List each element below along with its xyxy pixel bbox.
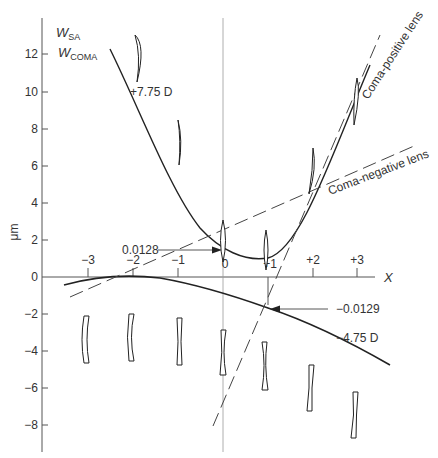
w-sa-positive-curve <box>110 49 370 259</box>
y-tick-neg6: −6 <box>24 381 38 395</box>
y-tick-labels: 12 10 8 6 4 2 0 −2 −4 −6 −8 <box>24 47 38 432</box>
axes <box>42 18 375 452</box>
y-tick-10: 10 <box>25 85 39 99</box>
lens-icon-pos-6 <box>354 78 359 125</box>
y-tick-12: 12 <box>25 47 39 61</box>
lens-icon-pos-2 <box>178 120 181 165</box>
y-tick-8: 8 <box>31 122 38 136</box>
y-tick-neg8: −8 <box>24 418 38 432</box>
lens-aberration-chart: 12 10 8 6 4 2 0 −2 −4 −6 −8 μm −3 −2 −1 … <box>0 0 438 458</box>
lens-icon-neg-5 <box>262 342 268 390</box>
w-sa-negative-curve <box>64 276 390 365</box>
x-tick-neg1: −1 <box>171 253 185 267</box>
label-minus-4-75-D: −4.75 D <box>336 331 379 345</box>
lens-icon-neg-6 <box>307 365 314 411</box>
negative-lens-icons <box>82 314 358 438</box>
y-tick-0: 0 <box>31 270 38 284</box>
label-coma-negative: Coma-negative lens <box>326 146 431 197</box>
y-tick-neg2: −2 <box>24 307 38 321</box>
y-tick-4: 4 <box>31 196 38 210</box>
legend: WSA WCOMA <box>56 25 97 62</box>
x-axis-label: X <box>383 270 394 285</box>
x-tick-pos2: +2 <box>306 253 320 267</box>
y-tick-2: 2 <box>31 233 38 247</box>
lens-icon-neg-2 <box>128 314 135 361</box>
coma-negative-line <box>70 146 414 297</box>
y-tick-6: 6 <box>31 159 38 173</box>
lens-icon-neg-7 <box>351 392 358 438</box>
lens-icon-pos-3 <box>221 220 226 262</box>
label-coma-positive: Coma-positive lens <box>359 8 426 101</box>
x-tick-neg3: −3 <box>81 253 95 267</box>
lens-icon-pos-5 <box>309 148 314 194</box>
x-tick-pos3: +3 <box>350 253 364 267</box>
lens-icon-neg-1 <box>82 316 89 363</box>
legend-w-coma: WCOMA <box>58 45 97 62</box>
legend-w-sa: WSA <box>56 25 80 42</box>
y-axis-label: μm <box>7 224 21 241</box>
label-plus-7-75-D: +7.75 D <box>130 85 173 99</box>
lens-icon-neg-3 <box>177 318 182 365</box>
lens-icon-pos-4 <box>264 230 268 270</box>
svg-text:−0.0129: −0.0129 <box>336 302 380 316</box>
lens-icon-pos-1 <box>135 35 141 82</box>
lens-icon-neg-4 <box>220 330 226 375</box>
svg-text:0.0128: 0.0128 <box>122 243 159 257</box>
y-tick-neg4: −4 <box>24 344 38 358</box>
positive-lens-icons <box>135 35 358 270</box>
